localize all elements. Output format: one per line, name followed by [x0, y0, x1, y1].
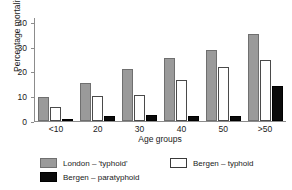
y-tick-label: 10 — [18, 93, 27, 101]
bar-group: 40 — [160, 18, 202, 121]
bar-group: >50 — [244, 18, 286, 121]
bar — [104, 116, 115, 121]
bar — [80, 83, 91, 121]
legend-swatch-icon-london — [40, 158, 57, 168]
bar — [164, 58, 175, 121]
legend-row-2: Bergen – paratyphoid — [40, 170, 280, 184]
y-tick-label: 20 — [18, 68, 27, 76]
legend-item-bergen-paratyphoid: Bergen – paratyphoid — [40, 172, 170, 182]
bar — [206, 50, 217, 121]
chart-legend: London – 'typhoid' Bergen – typhoid Berg… — [40, 156, 280, 184]
x-axis-line — [34, 121, 286, 122]
y-tick-label: 40 — [18, 19, 27, 27]
bar-groups: <1020304050>50 — [35, 18, 286, 121]
x-tick-label: 40 — [160, 124, 202, 134]
bar — [92, 96, 103, 121]
legend-item-london-typhoid: London – 'typhoid' — [40, 158, 170, 168]
bar — [188, 116, 199, 121]
x-tick-label: 50 — [202, 124, 244, 134]
legend-swatch-icon-bergen-para — [40, 172, 57, 182]
bar-group: 50 — [202, 18, 244, 121]
bar — [38, 97, 49, 121]
x-tick-label: >50 — [244, 124, 286, 134]
x-tick-label: 20 — [77, 124, 119, 134]
bar — [248, 34, 259, 121]
y-tick: 30 — [31, 48, 34, 49]
bar-group: <10 — [35, 18, 77, 121]
y-tick-label: 0 — [22, 118, 27, 126]
legend-row-1: London – 'typhoid' Bergen – typhoid — [40, 156, 280, 170]
bar — [272, 86, 283, 121]
bar — [62, 119, 73, 121]
bar — [230, 116, 241, 121]
y-tick: 0 — [31, 122, 34, 123]
bar — [50, 107, 61, 121]
legend-label-bergen-paratyphoid: Bergen – paratyphoid — [63, 173, 140, 182]
x-tick-label: <10 — [35, 124, 77, 134]
legend-swatch-icon-bergen-typhoid — [170, 158, 187, 168]
y-tick: 20 — [31, 72, 34, 73]
y-tick: 40 — [31, 23, 34, 24]
y-tick-label: 30 — [18, 44, 27, 52]
bar — [218, 67, 229, 121]
bar — [176, 80, 187, 121]
y-tick: 10 — [31, 97, 34, 98]
bar — [134, 95, 145, 121]
x-axis-title: Age groups — [34, 134, 286, 144]
bar — [260, 60, 271, 121]
bar-group: 20 — [77, 18, 119, 121]
bar-chart: Percentage mortality 010203040 <10203040… — [0, 0, 292, 190]
legend-item-bergen-typhoid: Bergen – typhoid — [170, 158, 254, 168]
bar-group: 30 — [119, 18, 161, 121]
bar — [122, 69, 133, 121]
bar — [146, 115, 157, 121]
legend-label-london: London – 'typhoid' — [63, 159, 127, 168]
plot-area: 010203040 <1020304050>50 — [34, 18, 286, 122]
x-tick-label: 30 — [119, 124, 161, 134]
legend-label-bergen-typhoid: Bergen – typhoid — [193, 159, 254, 168]
